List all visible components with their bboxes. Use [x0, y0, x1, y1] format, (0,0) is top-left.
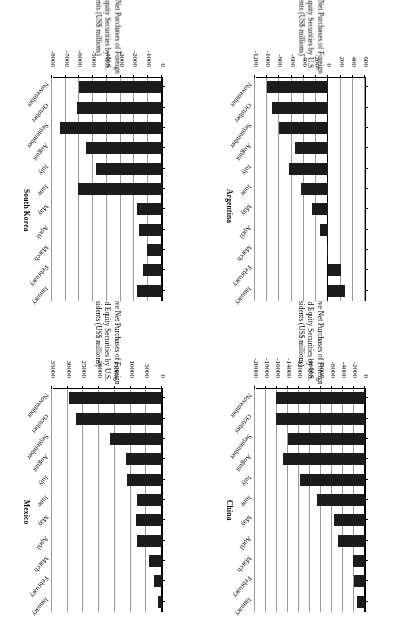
- category-tick: [162, 86, 165, 87]
- plot-area-south-korea: [53, 77, 163, 301]
- axis-tick: [291, 75, 292, 78]
- category-tick: [365, 229, 368, 230]
- bar-argentina-january: [328, 285, 345, 297]
- category-label-march: March: [236, 555, 254, 574]
- value-tick-label: -6000: [77, 27, 85, 67]
- category-label-july: July: [240, 473, 253, 487]
- bar-mexico-january: [158, 596, 162, 608]
- bar-china-august: [283, 453, 365, 465]
- value-tick-label: 30000: [65, 338, 73, 378]
- value-tick-label: 25000: [80, 338, 88, 378]
- value-tick-label: -7000: [63, 27, 71, 67]
- bar-south-korea-march: [147, 244, 162, 256]
- value-tick-label: 35000: [49, 338, 57, 378]
- chart-panel-china: China0-2000-4000-6000-8000-10000-12000-1…: [203, 311, 406, 622]
- value-tick-label: -20000: [252, 338, 260, 378]
- axis-tick: [287, 386, 288, 389]
- category-tick: [365, 519, 368, 520]
- value-tick-label: -1000: [145, 27, 153, 67]
- category-label-april: April: [35, 534, 50, 551]
- value-tick-label: -1000: [264, 27, 272, 67]
- category-tick: [162, 397, 165, 398]
- bar-mexico-october: [76, 413, 162, 425]
- value-tick-label: -16000: [274, 338, 282, 378]
- bar-china-february: [354, 575, 365, 587]
- category-tick: [365, 107, 368, 108]
- value-tick-label: 0: [325, 27, 333, 67]
- bar-china-april: [338, 535, 365, 547]
- axis-tick: [134, 75, 135, 78]
- bar-argentina-september: [279, 122, 328, 134]
- gridline: [65, 78, 66, 301]
- bar-china-may: [334, 514, 365, 526]
- axis-tick: [161, 386, 162, 389]
- category-tick: [365, 249, 368, 250]
- bar-mexico-august: [126, 453, 162, 465]
- category-label-april: April: [35, 223, 50, 240]
- bar-mexico-april: [137, 535, 162, 547]
- category-tick: [365, 499, 368, 500]
- value-tick-label: 400: [350, 27, 358, 67]
- bar-mexico-june: [137, 494, 162, 506]
- category-tick: [365, 127, 368, 128]
- category-tick: [365, 580, 368, 581]
- value-tick-label: -800: [276, 27, 284, 67]
- value-tick-label: -6000: [329, 338, 337, 378]
- chart-panel-mexico: Mexico0500010000150002000025000300003500…: [0, 311, 203, 622]
- category-tick: [365, 458, 368, 459]
- axis-tick: [51, 75, 52, 78]
- value-tick-label: -2000: [132, 27, 140, 67]
- value-tick-label: 0: [159, 338, 167, 378]
- bar-south-korea-july: [96, 163, 162, 175]
- value-tick-label: 200: [338, 27, 346, 67]
- category-tick: [365, 479, 368, 480]
- category-label-february: February: [28, 264, 50, 289]
- bar-mexico-march: [149, 555, 162, 567]
- bar-china-september: [288, 433, 365, 445]
- axis-tick: [331, 386, 332, 389]
- category-tick: [162, 540, 165, 541]
- category-tick: [365, 147, 368, 148]
- axis-tick: [145, 386, 146, 389]
- chart-title-mexico: Mexico: [22, 500, 31, 525]
- gridline: [265, 389, 266, 612]
- chart-grid: China0-2000-4000-6000-8000-10000-12000-1…: [0, 0, 406, 622]
- bar-argentina-april: [320, 224, 328, 236]
- axis-tick: [65, 75, 66, 78]
- plot-area-mexico: [53, 388, 163, 612]
- category-label-july: July: [240, 162, 253, 176]
- category-label-may: May: [36, 514, 50, 529]
- value-axis-title-argentina: Cumulative Net Purchases of Foreign Debt…: [297, 0, 326, 94]
- axis-tick: [79, 75, 80, 78]
- chart-panel-argentina: Argentina6004002000-200-400-600-800-1000…: [203, 0, 406, 311]
- chart-title-south-korea: South Korea: [22, 189, 31, 232]
- bar-south-korea-january: [137, 285, 162, 297]
- bar-argentina-may: [312, 203, 328, 215]
- axis-tick: [353, 386, 354, 389]
- category-label-may: May: [36, 203, 50, 218]
- category-label-march: March: [33, 555, 51, 574]
- category-tick: [365, 540, 368, 541]
- category-label-june: June: [239, 183, 253, 198]
- category-tick: [162, 107, 165, 108]
- category-tick: [365, 188, 368, 189]
- axis-tick: [51, 386, 52, 389]
- category-tick: [162, 479, 165, 480]
- value-tick-label: -1200: [252, 27, 260, 67]
- axis-tick: [265, 386, 266, 389]
- gridline: [51, 78, 52, 301]
- bar-argentina-august: [295, 142, 328, 154]
- chart-title-argentina: Argentina: [225, 189, 234, 223]
- category-tick: [365, 290, 368, 291]
- bar-argentina-october: [272, 102, 329, 114]
- bar-mexico-july: [127, 474, 162, 486]
- category-tick: [162, 438, 165, 439]
- category-tick: [365, 397, 368, 398]
- category-tick: [162, 458, 165, 459]
- category-tick: [162, 499, 165, 500]
- gridline: [266, 78, 267, 301]
- category-tick: [365, 560, 368, 561]
- axis-tick: [254, 386, 255, 389]
- gridline: [67, 389, 68, 612]
- category-tick: [162, 229, 165, 230]
